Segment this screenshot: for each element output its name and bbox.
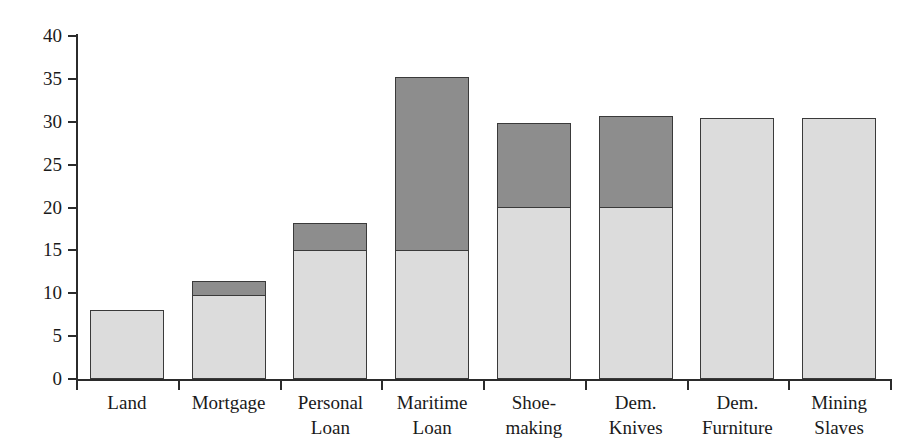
bar-3: [395, 36, 469, 379]
x-axis-label: Land: [76, 390, 178, 415]
bar-segment-lower: [802, 118, 876, 379]
y-axis-tick-label: 30: [28, 112, 62, 131]
bar-segment-lower: [90, 310, 164, 379]
x-axis-tick: [890, 381, 892, 390]
x-axis-tick: [76, 381, 78, 390]
bar-7: [802, 36, 876, 379]
bar-4: [497, 36, 571, 379]
bar-segment-lower: [700, 118, 774, 379]
bar-segment-upper: [395, 77, 469, 251]
x-axis-label: Mining Slaves: [788, 390, 890, 440]
bar-0: [90, 36, 164, 379]
bar-5: [599, 36, 673, 379]
x-axis-tick: [280, 381, 282, 390]
x-axis-tick: [381, 381, 383, 390]
x-axis-label: Maritime Loan: [381, 390, 483, 440]
bar-segment-upper: [293, 223, 367, 250]
y-axis-tick-label: 5: [28, 326, 62, 345]
bar-2: [293, 36, 367, 379]
bar-segment-upper: [599, 116, 673, 208]
bar-segment-upper: [497, 123, 571, 208]
x-axis-tick: [483, 381, 485, 390]
x-axis-label: Mortgage: [178, 390, 280, 415]
x-axis-tick: [687, 381, 689, 390]
y-axis-tick-label: 20: [28, 198, 62, 217]
x-axis-label: Shoe- making: [483, 390, 585, 440]
plot-area: [76, 36, 890, 379]
x-axis-tick: [788, 381, 790, 390]
x-axis-label: Dem. Furniture: [687, 390, 789, 440]
y-axis-tick-label: 40: [28, 26, 62, 45]
bar-segment-upper: [192, 281, 266, 296]
y-axis-tick-label: 0: [28, 369, 62, 388]
bar-chart: 0510152025303540 LandMortgagePersonal Lo…: [0, 0, 922, 447]
y-axis-tick-label: 35: [28, 69, 62, 88]
bar-segment-lower: [293, 250, 367, 379]
y-axis-tick-label: 15: [28, 240, 62, 259]
bar-segment-lower: [192, 294, 266, 379]
bar-6: [700, 36, 774, 379]
y-axis-tick-label: 10: [28, 283, 62, 302]
bar-segment-lower: [599, 207, 673, 379]
x-axis-tick: [178, 381, 180, 390]
y-axis-tick-label: 25: [28, 155, 62, 174]
bar-segment-lower: [497, 207, 571, 379]
x-axis-label: Personal Loan: [280, 390, 382, 440]
x-axis-label: Dem. Knives: [585, 390, 687, 440]
bar-1: [192, 36, 266, 379]
x-axis-tick: [585, 381, 587, 390]
bar-segment-lower: [395, 250, 469, 379]
